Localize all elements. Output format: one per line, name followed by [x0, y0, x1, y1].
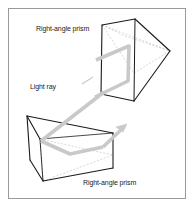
- ray-diagonal-segment: [41, 92, 104, 141]
- prism-diagram-figure: Right-angle prism Light ray Right-angle …: [0, 0, 194, 207]
- label-top-prism: Right-angle prism: [36, 25, 89, 33]
- diagram-canvas: Right-angle prism Light ray Right-angle …: [0, 0, 194, 207]
- label-bottom-prism: Right-angle prism: [83, 179, 136, 187]
- ray-lower-prism-segment: [41, 141, 103, 154]
- label-light-ray: Light ray: [30, 83, 57, 91]
- ray-upper-prism-segment: [95, 46, 129, 97]
- light-ray-leader-line: [82, 77, 93, 84]
